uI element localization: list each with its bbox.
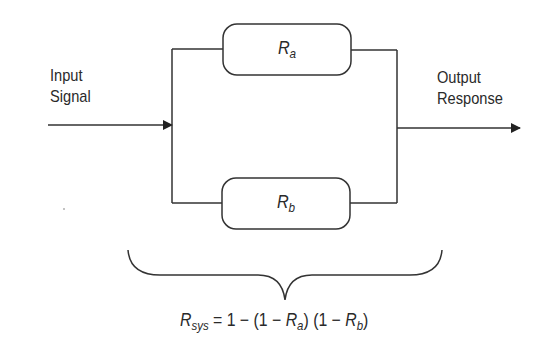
ra-subscript: a: [290, 46, 297, 61]
curly-brace: [128, 250, 442, 300]
formula-rb-symbol: R: [345, 310, 356, 330]
block-ra-label: Ra: [229, 38, 344, 61]
formula-mid-part: ) (1 −: [303, 310, 345, 330]
output-response-label: Output Response: [437, 67, 503, 109]
formula-ra-symbol: R: [286, 310, 297, 330]
output-label-line2: Response: [437, 88, 503, 109]
formula-rsys-symbol: R: [180, 310, 191, 330]
system-reliability-formula: Rsys = 1 − (1 − Ra) (1 − Rb): [180, 310, 382, 333]
ra-symbol: R: [278, 38, 290, 58]
rb-symbol: R: [277, 192, 289, 212]
output-label-line1: Output: [437, 67, 503, 88]
stray-dot: [63, 208, 65, 210]
formula-eq-part: = 1 − (1 −: [209, 310, 286, 330]
block-rb-label: Rb: [228, 192, 343, 215]
rb-subscript: b: [289, 200, 296, 215]
formula-end-part: ): [363, 310, 368, 330]
input-signal-label: Input Signal: [50, 65, 91, 107]
input-label-line2: Signal: [50, 86, 91, 107]
formula-rsys-subscript: sys: [191, 318, 208, 333]
input-label-line1: Input: [50, 65, 91, 86]
